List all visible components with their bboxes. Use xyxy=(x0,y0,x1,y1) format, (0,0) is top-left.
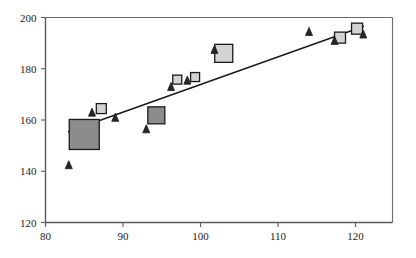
y-tick-label: 140 xyxy=(20,165,37,177)
x-tick-label: 120 xyxy=(347,230,364,242)
chart-background xyxy=(0,0,416,258)
data-point-square xyxy=(148,107,165,124)
y-tick-label: 180 xyxy=(20,63,37,75)
y-tick-label: 160 xyxy=(20,114,37,126)
x-tick-label: 90 xyxy=(118,230,130,242)
x-tick-label: 100 xyxy=(192,230,209,242)
data-point-square xyxy=(173,75,182,84)
data-point-square xyxy=(191,73,200,82)
y-tick-label: 200 xyxy=(20,12,37,24)
x-tick-label: 110 xyxy=(270,230,287,242)
chart-canvas: 8090100110120 120140160180200 xyxy=(0,0,416,258)
data-point-square xyxy=(69,119,99,149)
data-point-square xyxy=(96,104,106,114)
y-tick-label: 120 xyxy=(20,217,37,229)
data-point-square xyxy=(352,23,363,34)
x-tick-label: 80 xyxy=(40,230,52,242)
scatter-chart: 8090100110120 120140160180200 xyxy=(0,0,416,258)
